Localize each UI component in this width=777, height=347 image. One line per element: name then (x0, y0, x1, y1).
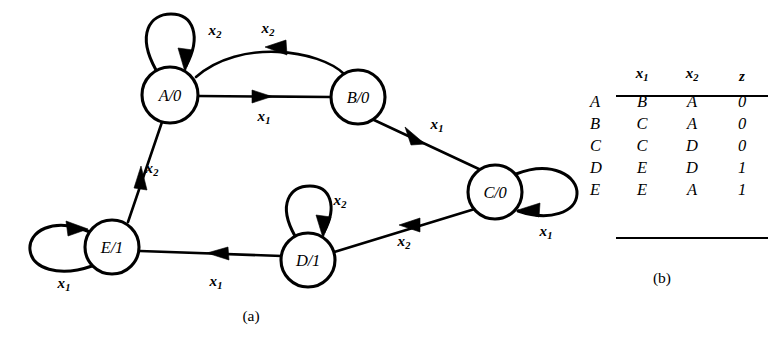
row-next-x1: E (620, 157, 664, 179)
edge-label-A-to-B-sub: 1 (265, 115, 270, 126)
edge-D-to-E (140, 247, 282, 260)
edge-label-E-self-loop-var: x (58, 275, 66, 291)
edge-label-C-to-D: x2 (398, 234, 411, 252)
edge-B-to-C (374, 120, 481, 170)
node-B-label: B/0 (347, 90, 369, 107)
row-next-x2: D (664, 135, 720, 157)
edge-label-C-to-D-var: x (398, 233, 406, 249)
edge-label-C-self-loop-var: x (540, 223, 548, 239)
edge-E-self-loop (30, 221, 92, 271)
state-table-head: x1 x2 z (588, 62, 764, 91)
edge-label-D-self-loop-sub: 2 (341, 199, 346, 210)
edge-D-self-loop (286, 186, 331, 238)
edge-label-D-to-E: x1 (210, 274, 223, 292)
edge-label-E-to-A: x2 (146, 161, 159, 179)
edge-E-self-loop-arrowhead (66, 221, 88, 236)
edge-B-to-C-arrowhead (405, 127, 425, 145)
edge-label-B-to-A: x2 (262, 21, 275, 39)
table-top-rule (616, 95, 768, 97)
edge-label-B-to-A-sub: 2 (269, 27, 274, 38)
node-C-label: C/0 (483, 185, 506, 202)
edge-label-E-self-loop-sub: 1 (65, 282, 70, 293)
row-output-z: 1 (720, 157, 764, 179)
edge-label-E-self-loop: x1 (58, 276, 71, 294)
edge-label-A-self-loop-var: x (209, 22, 217, 38)
state-table-body: A B A 0 B C A 0 C C D 0 D (588, 91, 764, 201)
row-state-label: C (588, 135, 620, 157)
node-D-label: D/1 (296, 253, 320, 270)
edge-label-E-to-A-var: x (146, 160, 154, 176)
edge-label-D-self-loop: x2 (334, 193, 347, 211)
edge-B-to-A-line (196, 52, 344, 77)
header-x1-var: x (636, 65, 644, 81)
state-table-block: x1 x2 z A B A 0 B C A 0 (588, 62, 768, 262)
row-state-label: B (588, 113, 620, 135)
caption-b: (b) (653, 270, 671, 286)
edge-A-self-loop (146, 14, 194, 72)
header-z: z (720, 62, 764, 91)
edge-A-to-B (198, 90, 331, 103)
row-next-x1: E (620, 179, 664, 201)
row-next-x2: A (664, 179, 720, 201)
edge-label-B-to-C: x1 (431, 117, 444, 135)
row-state-label: D (588, 157, 620, 179)
edge-label-B-to-C-var: x (431, 116, 439, 132)
row-next-x2: D (664, 157, 720, 179)
header-state-column (588, 62, 620, 91)
edge-A-to-B-arrowhead (252, 90, 272, 103)
edge-label-D-to-E-var: x (210, 273, 218, 289)
header-x2: x2 (664, 62, 720, 91)
edge-label-A-to-B: x1 (258, 109, 271, 127)
table-row: B C A 0 (588, 113, 764, 135)
header-x1: x1 (620, 62, 664, 91)
edge-label-C-to-D-sub: 2 (405, 240, 410, 251)
header-x2-var: x (686, 65, 694, 81)
edge-label-A-to-B-var: x (258, 108, 266, 124)
edge-label-E-to-A-sub: 2 (153, 167, 158, 178)
state-table-header-row: x1 x2 z (588, 62, 764, 91)
edge-label-D-self-loop-var: x (334, 192, 342, 208)
node-A-label: A/0 (159, 88, 181, 105)
node-E-label: E/1 (101, 240, 123, 257)
edge-label-D-to-E-sub: 1 (217, 280, 222, 291)
table-row: D E D 1 (588, 157, 764, 179)
edge-E-self-loop-path (30, 225, 92, 271)
row-output-z: 1 (720, 179, 764, 201)
edge-label-A-self-loop-sub: 2 (216, 29, 221, 40)
table-bottom-rule (616, 237, 768, 239)
header-x2-sub: 2 (693, 72, 698, 83)
table-row: C C D 0 (588, 135, 764, 157)
figure-page: A/0 B/0 C/0 D/1 E/1 x2 x1 x2 x1 x2 x1 x2… (0, 0, 777, 347)
edge-label-C-self-loop: x1 (540, 224, 553, 242)
caption-a: (a) (242, 308, 259, 324)
edge-D-to-E-arrowhead (207, 247, 229, 260)
row-next-x2: A (664, 113, 720, 135)
edge-B-to-A (196, 40, 344, 77)
table-row: E E A 1 (588, 179, 764, 201)
header-x1-sub: 1 (643, 72, 648, 83)
row-next-x1: C (620, 135, 664, 157)
row-next-x1: C (620, 113, 664, 135)
edge-label-B-to-A-var: x (262, 20, 270, 36)
edge-C-self-loop (516, 169, 577, 217)
state-table: x1 x2 z A B A 0 B C A 0 (588, 62, 764, 201)
edge-label-A-self-loop: x2 (209, 23, 222, 41)
edge-label-C-self-loop-sub: 1 (547, 230, 552, 241)
row-state-label: E (588, 179, 620, 201)
row-output-z: 0 (720, 113, 764, 135)
edge-label-B-to-C-sub: 1 (438, 123, 443, 134)
edge-B-to-C-line (374, 120, 481, 170)
row-output-z: 0 (720, 135, 764, 157)
